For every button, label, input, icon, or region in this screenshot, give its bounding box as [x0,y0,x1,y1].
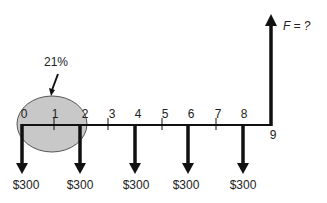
payment-amount-8: $300 [230,179,257,191]
payment-amount-0: $300 [13,179,40,191]
period-label-7: 7 [215,108,222,120]
period-label-1: 1 [52,108,59,120]
period-label-5: 5 [162,108,169,120]
interest-rate-label: 21% [44,56,68,68]
payment-arrow-4 [129,124,141,174]
payment-amount-6: $300 [173,179,200,191]
rate-pointer-arrowhead-icon [49,88,55,96]
period-label-0: 0 [21,108,28,120]
period-label-3: 3 [109,108,116,120]
future-value-arrow [265,14,277,126]
payment-amount-2: $300 [67,179,94,191]
period-label-2: 2 [82,108,89,120]
diagram-graphics [0,0,327,203]
cash-flow-diagram: 21% F = ? 0 1 2 3 4 5 6 7 8 9 $300 $300 … [0,0,327,203]
payment-amount-4: $300 [123,179,150,191]
rate-pointer-line [52,74,58,90]
future-value-label: F = ? [283,20,310,32]
payment-arrow-8 [237,124,249,174]
payment-arrow-6 [182,124,194,174]
period-label-6: 6 [188,108,195,120]
period-label-9: 9 [270,129,277,141]
period-label-8: 8 [241,108,248,120]
period-label-4: 4 [135,108,142,120]
